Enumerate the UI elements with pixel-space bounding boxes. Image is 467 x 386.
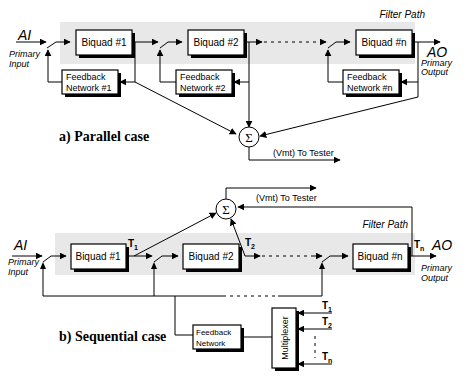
multiplexer-label: Multiplexer [280, 316, 290, 360]
filter-path-label: Filter Path [362, 219, 408, 230]
feedback-network-line2: Network [196, 339, 226, 348]
feedback-network-1-line2: Network #1 [66, 83, 112, 93]
sigma-symbol: Σ [245, 130, 253, 145]
sequential-caption: b) Sequential case [59, 329, 166, 345]
filter-test-diagram: Filter Path AI Primary Input Biquad #1 B… [0, 0, 467, 386]
output-label-1: Primary [421, 263, 452, 273]
feedback-network-1-line1: Feedback [66, 72, 106, 82]
biquad-n-label: Biquad #n [357, 251, 402, 262]
biquad-2-label: Biquad #2 [193, 37, 238, 48]
filter-path-label: Filter Path [379, 9, 425, 20]
feedback-network-n-line1: Feedback [347, 72, 387, 82]
tester-label: (Vmt) To Tester [273, 148, 334, 158]
feedback-network-2-line2: Network #2 [180, 83, 226, 93]
input-label-1: Primary [9, 49, 40, 59]
biquad-n-label: Biquad #n [361, 37, 406, 48]
input-signal-label: AI [17, 27, 31, 43]
mux-tap-t2-label: T2 [322, 316, 332, 329]
output-label-2: Output [421, 67, 449, 77]
feedback-network-2-line1: Feedback [180, 72, 220, 82]
tester-label: (Vmt) To Tester [256, 193, 317, 203]
output-label-2: Output [421, 273, 449, 283]
input-label-2: Input [8, 267, 29, 277]
input-label-2: Input [9, 59, 30, 69]
tap-tn-label: Tn [414, 239, 424, 252]
parallel-caption: a) Parallel case [59, 129, 149, 145]
biquad-1-label: Biquad #1 [75, 251, 120, 262]
input-signal-label: AI [13, 237, 27, 253]
mux-tap-tn-label: Tn [322, 351, 332, 364]
parallel-case: Filter Path AI Primary Input Biquad #1 B… [9, 9, 452, 160]
input-label-1: Primary [8, 257, 39, 267]
sigma-symbol: Σ [222, 202, 230, 217]
output-signal-label: AO [431, 237, 452, 253]
feedback-network-line1: Feedback [196, 328, 232, 337]
mux-tap-t1-label: T1 [322, 300, 332, 313]
biquad-2-label: Biquad #2 [188, 251, 233, 262]
biquad-1-label: Biquad #1 [81, 37, 126, 48]
sequential-case: Σ (Vmt) To Tester Filter Path AI Primary… [8, 188, 452, 371]
feedback-network-n-line2: Network #n [347, 83, 393, 93]
